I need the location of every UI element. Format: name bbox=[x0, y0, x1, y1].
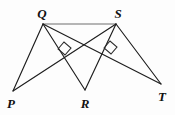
segment-QR bbox=[43, 24, 85, 90]
right-angle-mark-right bbox=[104, 41, 117, 54]
vertex-label-T: T bbox=[158, 90, 166, 103]
right-angle-mark-left bbox=[58, 42, 71, 55]
segment-ST bbox=[116, 24, 161, 84]
vertex-label-P: P bbox=[7, 97, 15, 110]
vertex-label-Q: Q bbox=[37, 7, 46, 20]
geometry-figure: P Q R S T bbox=[0, 0, 175, 115]
vertex-label-R: R bbox=[81, 97, 90, 110]
vertex-label-S: S bbox=[114, 7, 121, 20]
